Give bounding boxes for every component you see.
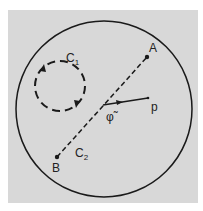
diagram-canvas: C1 C2 A B p φ̃ xyxy=(0,0,203,211)
loop-c1-arrow-top-icon xyxy=(40,64,46,72)
label-p: p xyxy=(151,100,158,114)
label-a: A xyxy=(149,41,157,55)
vector-p xyxy=(103,98,148,105)
point-b xyxy=(55,155,59,159)
vector-p-tip xyxy=(147,97,150,100)
label-phi: φ̃ xyxy=(106,110,119,124)
point-a xyxy=(145,55,149,59)
loop-c1-arrow-bottom-icon xyxy=(74,100,80,108)
label-b: B xyxy=(52,161,60,175)
outer-circle xyxy=(16,21,192,197)
label-c1: C1 xyxy=(66,51,80,67)
path-c2 xyxy=(57,57,147,157)
vector-p-arrow-icon xyxy=(116,100,123,105)
label-c2: C2 xyxy=(75,146,89,162)
